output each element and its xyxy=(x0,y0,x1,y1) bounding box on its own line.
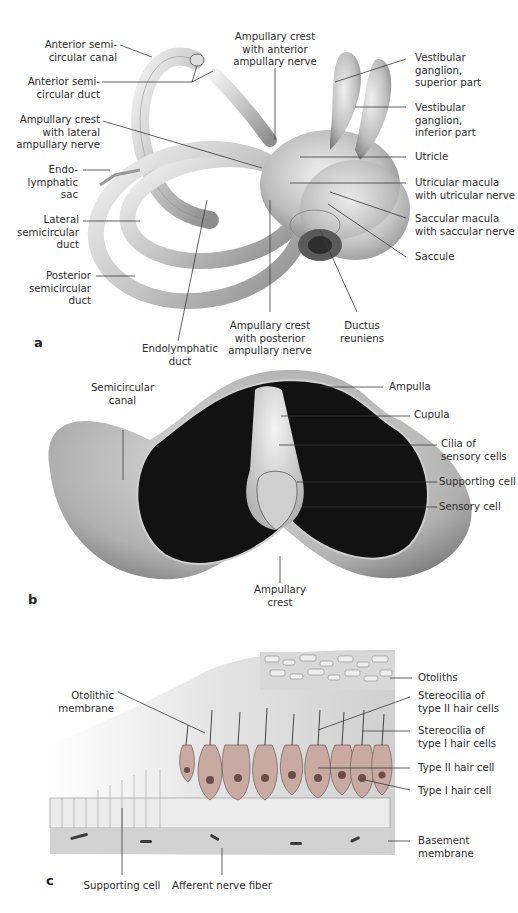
label-ampulla: Ampulla xyxy=(389,381,489,394)
label-ampullary-crest-lateral: Ampullary crest with lateral ampullary n… xyxy=(5,114,100,152)
label-cilia-sensory-cells: Cilia of sensory cells xyxy=(441,438,518,463)
label-ampullary-crest-posterior: Ampullary crest with posterior ampullary… xyxy=(220,320,320,358)
label-ampullary-crest: Ampullary crest xyxy=(245,584,315,609)
label-anterior-semicircular-canal: Anterior semi- circular canal xyxy=(20,39,117,64)
label-posterior-semicircular-duct: Posterior semicircular duct xyxy=(10,270,91,308)
label-supporting-cell-c: Supporting cell xyxy=(82,880,162,893)
label-anterior-semicircular-duct: Anterior semi- circular duct xyxy=(10,76,100,101)
label-lateral-semicircular-duct: Lateral semicircular duct xyxy=(10,214,79,252)
label-sensory-cell: Sensory cell xyxy=(439,501,518,514)
label-supporting-cell-b: Supporting cell xyxy=(439,476,518,489)
label-saccule: Saccule xyxy=(415,251,515,264)
label-stereocilia-type-2: Stereocilia of type II hair cells xyxy=(418,690,518,715)
label-afferent-nerve-fiber: Afferent nerve fiber xyxy=(172,880,272,893)
label-ductus-reuniens: Ductus reuniens xyxy=(330,320,394,345)
label-utricular-macula: Utricular macula with utricular nerve xyxy=(415,177,518,202)
label-semicircular-canal: Semicircular canal xyxy=(80,382,165,407)
panel-c-macula xyxy=(50,650,412,875)
label-otoliths: Otoliths xyxy=(418,672,518,685)
label-vestibular-ganglion-superior: Vestibular ganglion, superior part xyxy=(415,52,515,90)
label-endolymphatic-duct: Endolymphatic duct xyxy=(130,343,230,368)
panel-a-labyrinth xyxy=(83,45,410,341)
label-ampullary-crest-anterior: Ampullary crest with anterior ampullary … xyxy=(225,31,325,69)
label-stereocilia-type-1: Stereocilia of type I hair cells xyxy=(418,725,518,750)
panel-letter-c: c xyxy=(46,873,54,888)
panel-letter-b: b xyxy=(28,592,37,607)
label-otolithic-membrane: Otolithic membrane xyxy=(40,690,114,715)
label-type-2-hair-cell: Type II hair cell xyxy=(418,762,518,775)
label-basement-membrane: Basement membrane xyxy=(418,835,518,860)
label-utricle: Utricle xyxy=(415,151,515,164)
label-cupula: Cupula xyxy=(414,409,514,422)
label-type-1-hair-cell: Type I hair cell xyxy=(418,785,518,798)
label-saccular-macula: Saccular macula with saccular nerve xyxy=(415,213,518,238)
label-endolymphatic-sac: Endo- lymphatic sac xyxy=(20,164,78,202)
label-vestibular-ganglion-inferior: Vestibular ganglion, inferior part xyxy=(415,102,515,140)
panel-letter-a: a xyxy=(34,335,43,350)
